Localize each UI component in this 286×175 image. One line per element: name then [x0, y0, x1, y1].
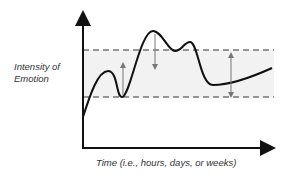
- y-axis-label-line2: Emotion: [14, 73, 60, 85]
- y-axis-label: Intensity of Emotion: [14, 61, 60, 85]
- x-axis-label: Time (i.e., hours, days, or weeks): [96, 157, 236, 168]
- y-axis-label-line1: Intensity of: [14, 61, 60, 73]
- emotion-diagram: [0, 0, 286, 175]
